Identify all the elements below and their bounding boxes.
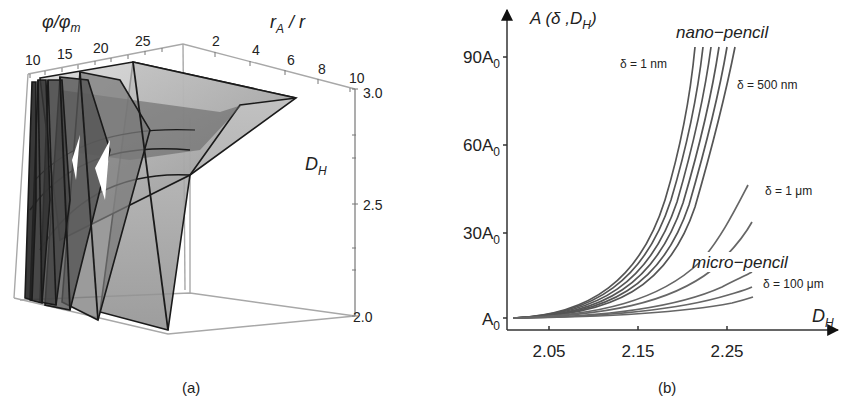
caption-a: (a) xyxy=(182,379,200,396)
y-tick-60a0: 60A0 xyxy=(463,136,500,159)
y-tick-labels: 90A0 60A0 30A0 A0 xyxy=(463,48,500,333)
annotation-micro-pencil: micro−pencil xyxy=(692,253,789,272)
axis-label-d: DH xyxy=(305,154,327,178)
micro-pencil-curves xyxy=(513,185,753,318)
axis-label-r: rA / r xyxy=(270,12,306,36)
x-tick-2-15: 2.15 xyxy=(621,342,654,361)
r-tick-10: 10 xyxy=(349,70,365,86)
x-tick-2-25: 2.25 xyxy=(710,342,743,361)
phi-tick-25: 25 xyxy=(135,33,151,49)
r-tick-labels: 2 4 6 8 10 xyxy=(212,33,365,86)
annotation-delta-100um: δ = 100 μm xyxy=(763,277,824,291)
y-axis-label: A (δ ,DH) xyxy=(529,9,597,32)
d-tick-labels: 3.0 2.5 2.0 xyxy=(353,85,383,325)
d-tick-2-5: 2.5 xyxy=(363,197,383,213)
r-tick-6: 6 xyxy=(287,52,295,68)
x-tick-labels: 2.05 2.15 2.25 xyxy=(532,342,743,361)
surface-plot: 10 15 20 25 2 4 6 8 10 3.0 2.5 2.0 φ/φm … xyxy=(0,0,420,410)
phi-tick-15: 15 xyxy=(57,46,73,62)
d-tick-3-0: 3.0 xyxy=(363,85,383,101)
axis-label-phi: φ/φm xyxy=(42,12,81,35)
panel-b-line-chart: 90A0 60A0 30A0 A0 2.05 2.15 2.25 A (δ ,D… xyxy=(420,0,844,410)
surface-family xyxy=(25,62,296,330)
r-tick-8: 8 xyxy=(318,61,326,77)
line-chart: 90A0 60A0 30A0 A0 2.05 2.15 2.25 A (δ ,D… xyxy=(420,0,844,410)
y-tick-30a0: 30A0 xyxy=(463,224,500,247)
y-tick-a0: A0 xyxy=(482,310,500,333)
caption-b: (b) xyxy=(658,379,676,396)
annotation-delta-1um: δ = 1 μm xyxy=(765,184,812,198)
annotation-delta-1nm: δ = 1 nm xyxy=(620,57,667,71)
r-tick-2: 2 xyxy=(212,33,220,49)
phi-tick-20: 20 xyxy=(93,40,109,56)
phi-tick-10: 10 xyxy=(25,52,41,68)
x-axis-label: DH xyxy=(812,306,834,330)
y-tick-90a0: 90A0 xyxy=(463,48,500,71)
annotation-delta-500nm: δ = 500 nm xyxy=(737,78,797,92)
annotation-nano-pencil: nano−pencil xyxy=(676,23,769,42)
d-tick-2-0: 2.0 xyxy=(353,309,373,325)
r-tick-4: 4 xyxy=(252,42,260,58)
panel-a-3d-surface: 10 15 20 25 2 4 6 8 10 3.0 2.5 2.0 φ/φm … xyxy=(0,0,420,410)
x-tick-2-05: 2.05 xyxy=(532,342,565,361)
